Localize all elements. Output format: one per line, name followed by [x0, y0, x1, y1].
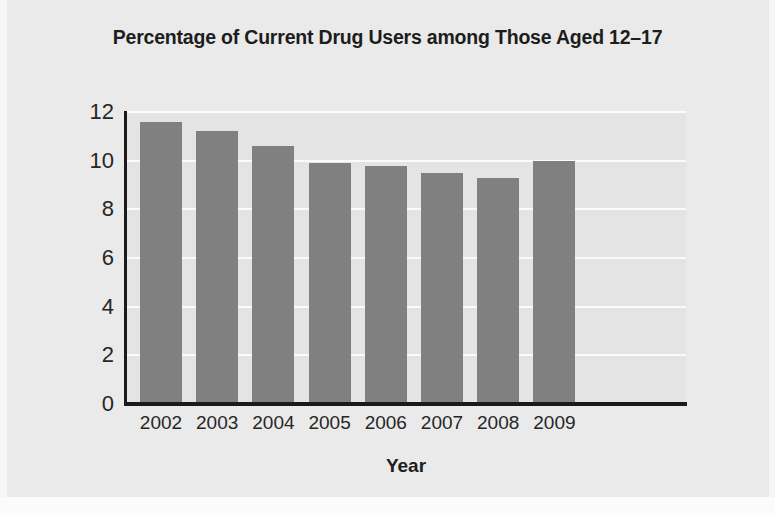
y-axis-tick-label: 12 [64, 101, 114, 123]
x-axis-tick-label: 2002 [133, 412, 189, 434]
bar [196, 131, 238, 404]
bar [140, 122, 182, 404]
x-axis-line [124, 402, 687, 406]
chart-page: Percentage of Current Drug Users among T… [0, 0, 775, 515]
page-edge-right [769, 0, 775, 515]
y-axis-tick-label: 6 [64, 247, 114, 269]
x-axis-tick-label: 2003 [189, 412, 245, 434]
chart-title: Percentage of Current Drug Users among T… [0, 26, 775, 49]
bar-series [126, 112, 686, 404]
y-axis-tick-label: 4 [64, 296, 114, 318]
y-axis-line [124, 111, 127, 405]
x-axis-tick-labels: 20022003200420052006200720082009 [126, 412, 686, 442]
x-axis-title: Year [126, 455, 686, 477]
y-axis-tick-label: 2 [64, 344, 114, 366]
x-axis-tick-label: 2008 [470, 412, 526, 434]
x-axis-tick-label: 2007 [414, 412, 470, 434]
x-axis-tick-label: 2004 [245, 412, 301, 434]
y-axis-tick-label: 8 [64, 198, 114, 220]
bar [309, 163, 351, 404]
y-axis-tick-label: 0 [64, 393, 114, 415]
y-axis-tick-label: 10 [64, 150, 114, 172]
bar [477, 178, 519, 404]
bar [421, 173, 463, 404]
y-axis-tick-labels: 024681012 [56, 0, 114, 515]
bar [252, 146, 294, 404]
page-edge-bottom [0, 497, 775, 515]
bar [533, 161, 575, 404]
x-axis-tick-label: 2009 [526, 412, 582, 434]
bar [365, 166, 407, 404]
x-axis-tick-label: 2005 [302, 412, 358, 434]
x-axis-tick-label: 2006 [358, 412, 414, 434]
page-edge-left [0, 0, 7, 515]
